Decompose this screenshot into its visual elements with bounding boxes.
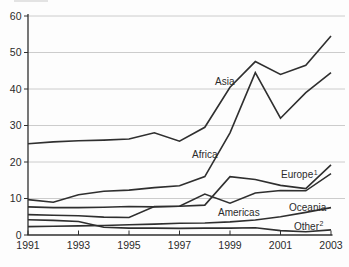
series-label-americas: Americas [218, 207, 260, 218]
x-tick-label-2003: 2003 [319, 239, 343, 251]
series-label-oceania: Oceania [289, 202, 327, 213]
series-line-oceania [28, 208, 331, 227]
series-label-europe: Europe1 [281, 169, 318, 181]
line-chart: 0102030405060199119931995199719992001200… [0, 0, 349, 267]
y-tick-label-50: 50 [10, 46, 22, 58]
series-label-superscript-europe: 1 [314, 169, 318, 176]
series-label-other: Other2 [294, 220, 324, 232]
series-line-africa [28, 73, 331, 203]
y-tick-label-40: 40 [10, 83, 22, 95]
x-tick-label-1997: 1997 [168, 239, 192, 251]
x-tick-label-1991: 1991 [16, 239, 40, 251]
series-label-superscript-other: 2 [320, 220, 324, 227]
y-tick-label-60: 60 [10, 10, 22, 22]
x-tick-label-1999: 1999 [218, 239, 242, 251]
series-label-africa: Africa [192, 149, 218, 160]
y-tick-label-30: 30 [10, 119, 22, 131]
y-tick-label-10: 10 [10, 192, 22, 204]
x-tick-label-2001: 2001 [269, 239, 293, 251]
y-tick-label-20: 20 [10, 156, 22, 168]
x-tick-label-1995: 1995 [117, 239, 141, 251]
series-label-asia: Asia [215, 76, 235, 87]
x-tick-label-1993: 1993 [67, 239, 91, 251]
line-chart-figure: 0102030405060199119931995199719992001200… [0, 0, 349, 267]
